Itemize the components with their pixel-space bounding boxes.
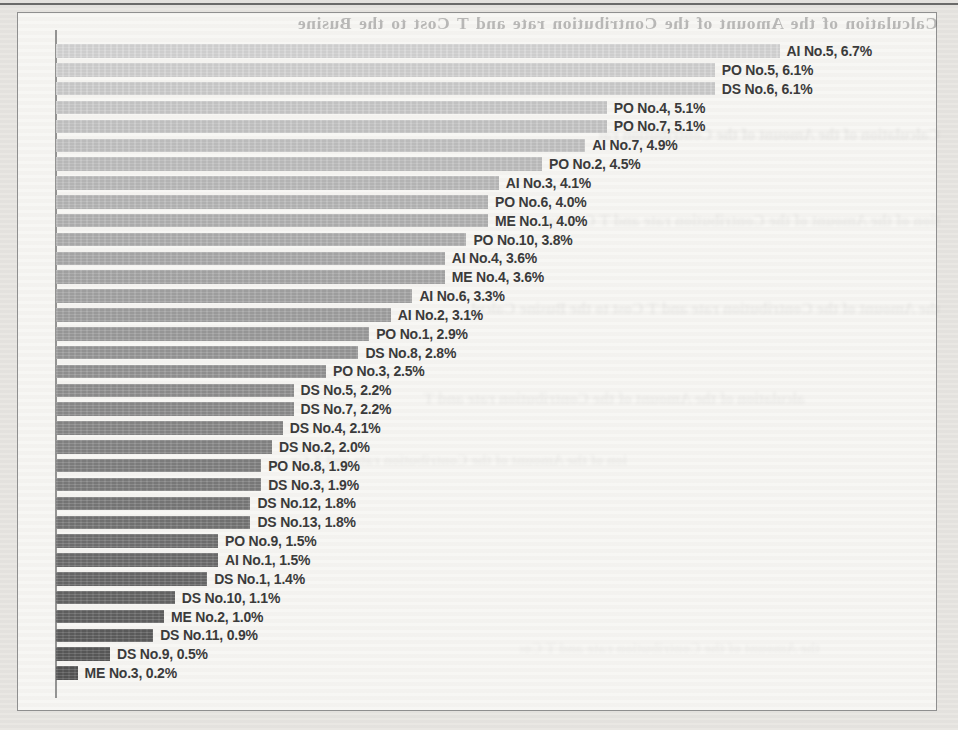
bar-label: DS No.11, 0.9%	[160, 628, 258, 642]
bar-label: PO No.5, 6.1%	[722, 63, 814, 77]
bar-row: AI No.2, 3.1%	[56, 308, 483, 322]
bar-label: AI No.1, 1.5%	[225, 553, 310, 567]
bar-row: AI No.3, 4.1%	[56, 176, 591, 190]
bar-label: ME No.3, 0.2%	[85, 666, 177, 680]
bar	[56, 534, 218, 548]
bar	[56, 629, 153, 643]
bar	[56, 270, 445, 284]
bar	[56, 214, 488, 228]
bar-label: PO No.6, 4.0%	[495, 195, 587, 209]
bar-row: DS No.11, 0.9%	[56, 628, 258, 642]
bar	[56, 572, 207, 586]
bar-row: PO No.3, 2.5%	[56, 364, 425, 378]
bar-label: DS No.13, 1.8%	[257, 515, 355, 529]
bar-row: DS No.12, 1.8%	[56, 496, 356, 510]
bar-row: DS No.5, 2.2%	[56, 383, 391, 397]
bar-row: ME No.1, 4.0%	[56, 214, 587, 228]
bar-row: DS No.4, 2.1%	[56, 421, 381, 435]
bar	[56, 233, 466, 247]
bar	[56, 610, 164, 624]
bar-row: DS No.10, 1.1%	[56, 591, 280, 605]
bar	[56, 440, 272, 454]
bar-row: DS No.8, 2.8%	[56, 346, 456, 360]
bar-label: PO No.4, 5.1%	[614, 101, 706, 115]
bar-label: DS No.1, 1.4%	[214, 572, 305, 586]
bar-label: AI No.4, 3.6%	[452, 251, 537, 265]
bar-label: AI No.5, 6.7%	[787, 44, 872, 58]
bar	[56, 195, 488, 209]
bar	[56, 308, 391, 322]
bar-label: PO No.9, 1.5%	[225, 534, 317, 548]
scan-edge-line	[0, 3, 958, 5]
bar	[56, 346, 358, 360]
bar	[56, 327, 369, 341]
bar	[56, 591, 175, 605]
bar-row: PO No.8, 1.9%	[56, 459, 360, 473]
bar-label: DS No.6, 6.1%	[722, 82, 813, 96]
bar	[56, 421, 283, 435]
bar-label: DS No.8, 2.8%	[365, 346, 456, 360]
bar-row: AI No.7, 4.9%	[56, 138, 678, 152]
bar	[56, 365, 326, 379]
bar	[56, 459, 261, 473]
bar	[56, 101, 607, 115]
bar-label: DS No.10, 1.1%	[182, 591, 280, 605]
bar	[56, 516, 250, 530]
bar-row: PO No.2, 4.5%	[56, 157, 641, 171]
bar	[56, 402, 294, 416]
bar-label: PO No.2, 4.5%	[549, 157, 641, 171]
bar	[56, 384, 294, 398]
bar-row: PO No.5, 6.1%	[56, 63, 813, 77]
bar-label: AI No.6, 3.3%	[419, 289, 504, 303]
bar-label: PO No.10, 3.8%	[473, 233, 572, 247]
bar	[56, 497, 250, 511]
bar-row: AI No.4, 3.6%	[56, 251, 537, 265]
bar-row: DS No.7, 2.2%	[56, 402, 391, 416]
bar-row: PO No.7, 5.1%	[56, 119, 705, 133]
bar	[56, 289, 412, 303]
bar-label: DS No.4, 2.1%	[290, 421, 381, 435]
bar-row: PO No.4, 5.1%	[56, 101, 705, 115]
bar-row: PO No.10, 3.8%	[56, 233, 573, 247]
bar-row: PO No.1, 2.9%	[56, 327, 468, 341]
bar-label: DS No.12, 1.8%	[257, 496, 355, 510]
bar	[56, 647, 110, 661]
bar-row: PO No.6, 4.0%	[56, 195, 587, 209]
bar	[56, 44, 780, 58]
bar	[56, 157, 542, 171]
bar-label: PO No.3, 2.5%	[333, 364, 425, 378]
bar-row: DS No.13, 1.8%	[56, 515, 356, 529]
bar-label: PO No.1, 2.9%	[376, 327, 468, 341]
bar-row: AI No.6, 3.3%	[56, 289, 505, 303]
bar	[56, 139, 585, 153]
bar-label: DS No.2, 2.0%	[279, 440, 370, 454]
bar-label: PO No.7, 5.1%	[614, 119, 706, 133]
bar-row: DS No.2, 2.0%	[56, 440, 370, 454]
bar	[56, 82, 715, 96]
bar-label: ME No.1, 4.0%	[495, 214, 587, 228]
bar	[56, 176, 499, 190]
chart-frame	[17, 12, 937, 711]
scanned-page: Calculation of the Amount of the Contrib…	[0, 0, 958, 730]
bar	[56, 120, 607, 134]
bar-label: AI No.2, 3.1%	[398, 308, 483, 322]
bar-row: ME No.3, 0.2%	[56, 666, 177, 680]
bar	[56, 252, 445, 266]
bar-label: AI No.7, 4.9%	[592, 138, 677, 152]
bar-label: ME No.2, 1.0%	[171, 610, 263, 624]
bar-row: ME No.2, 1.0%	[56, 610, 263, 624]
bar-label: PO No.8, 1.9%	[268, 459, 360, 473]
bar-row: AI No.1, 1.5%	[56, 553, 310, 567]
bar-label: DS No.9, 0.5%	[117, 647, 208, 661]
bar-row: DS No.3, 1.9%	[56, 478, 359, 492]
bar-row: PO No.9, 1.5%	[56, 534, 317, 548]
bar-label: DS No.7, 2.2%	[301, 402, 392, 416]
bar-row: ME No.4, 3.6%	[56, 270, 544, 284]
bar-row: DS No.9, 0.5%	[56, 647, 208, 661]
bar	[56, 478, 261, 492]
bar	[56, 666, 78, 680]
bar	[56, 553, 218, 567]
bar-row: AI No.5, 6.7%	[56, 44, 872, 58]
bar-label: DS No.3, 1.9%	[268, 478, 359, 492]
bar-label: ME No.4, 3.6%	[452, 270, 544, 284]
